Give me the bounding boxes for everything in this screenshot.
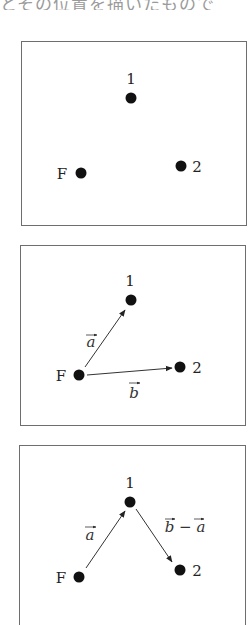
point-1-dot: [125, 497, 136, 508]
label-point-1: 1: [126, 70, 136, 88]
point-2-dot: [175, 362, 186, 373]
label-vector-b-minus-a: b − a: [165, 518, 206, 536]
label-point-F: F: [57, 165, 67, 183]
label-point-F: F: [56, 367, 66, 385]
panel-2-content: 1 F 2 a b: [56, 272, 202, 402]
label-point-F: F: [56, 569, 66, 587]
point-F-dot: [74, 572, 85, 583]
label-point-1: 1: [125, 272, 135, 290]
point-2-dot: [175, 565, 186, 576]
label-vector-b: b: [129, 384, 139, 402]
point-2-dot: [176, 161, 187, 172]
label-vector-a: a: [86, 526, 95, 544]
panel-3-content: 1 F 2 a b − a: [56, 474, 206, 587]
vector-b-arrow: [87, 368, 172, 375]
point-F-dot: [76, 168, 87, 179]
point-1-dot: [126, 295, 137, 306]
panel-1-content: 1 F 2: [57, 70, 202, 183]
point-F-dot: [74, 370, 85, 381]
label-vector-a: a: [87, 333, 96, 351]
label-point-2: 2: [192, 158, 202, 176]
label-point-2: 2: [192, 359, 202, 377]
label-point-2: 2: [192, 562, 202, 580]
point-1-dot: [126, 93, 137, 104]
label-point-1: 1: [125, 474, 135, 492]
